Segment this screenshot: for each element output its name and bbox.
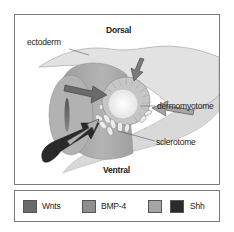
legend-label-wnts: Wnts [42, 201, 61, 211]
legend-label-bmp4: BMP-4 [101, 201, 126, 211]
diagram-frame: Dorsal ectoderm dermomyotome sclerotome … [14, 14, 220, 185]
dermomyotome-label: dermomyotome [157, 101, 214, 111]
legend-swatch-shh [170, 200, 184, 213]
legend: Wnts BMP-4 Shh [14, 190, 220, 222]
legend-label-shh: Shh [190, 201, 205, 211]
somite-core [108, 89, 138, 119]
legend-swatch-bmp4 [82, 200, 96, 213]
neural-canal [64, 98, 69, 132]
ectoderm-label: ectoderm [27, 37, 61, 47]
sclerotome-label: sclerotome [156, 137, 196, 147]
legend-swatch-wnts [23, 200, 37, 213]
dorsal-label: Dorsal [106, 25, 131, 35]
ventral-label: Ventral [103, 165, 130, 175]
legend-swatch-light [148, 200, 162, 213]
